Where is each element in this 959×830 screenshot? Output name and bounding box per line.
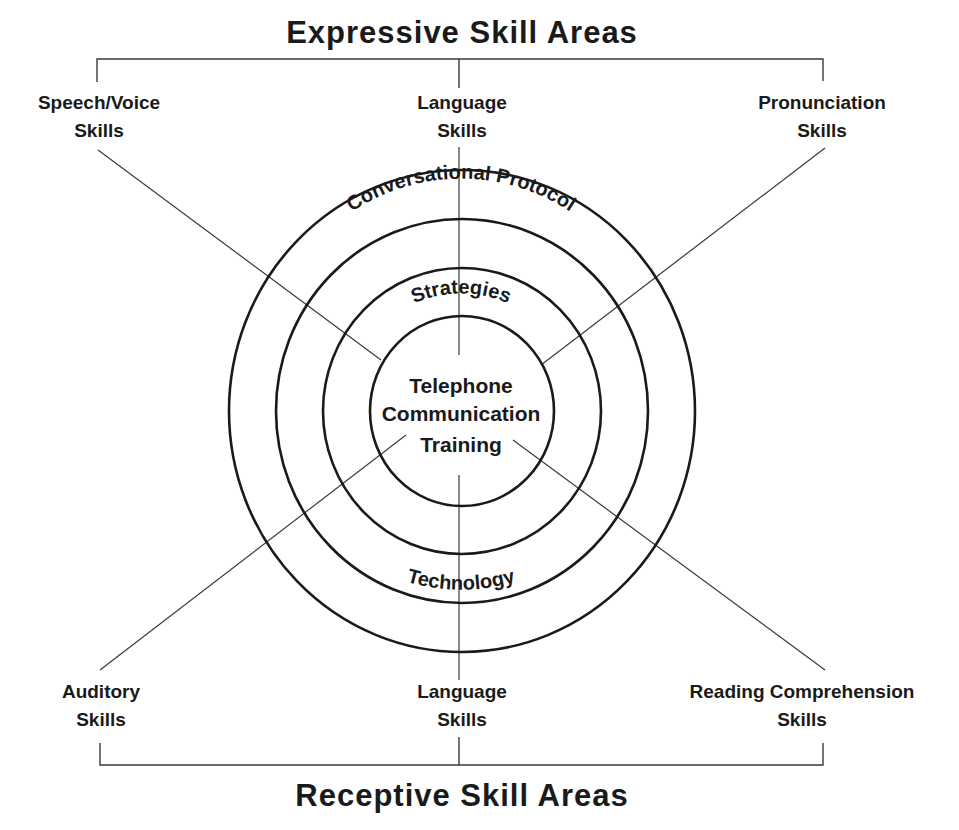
- svg-text:Skills: Skills: [777, 709, 827, 730]
- svg-text:Language: Language: [417, 92, 507, 113]
- receptive-bracket: [100, 737, 823, 765]
- svg-text:Reading Comprehension: Reading Comprehension: [690, 681, 915, 702]
- receptive-skill-reading-comprehension: Reading Comprehension Skills: [690, 681, 915, 730]
- expressive-bracket: [97, 59, 823, 88]
- ring-label-technology: Technology: [405, 564, 517, 593]
- expressive-skill-pronunciation: Pronunciation Skills: [758, 92, 886, 141]
- expressive-areas-title: Expressive Skill Areas: [286, 15, 638, 50]
- svg-text:Speech/Voice: Speech/Voice: [38, 92, 160, 113]
- receptive-skill-auditory: Auditory Skills: [62, 681, 141, 730]
- spoke-speech-voice: [98, 150, 381, 360]
- svg-text:Skills: Skills: [797, 120, 847, 141]
- svg-text:Communication: Communication: [382, 402, 541, 425]
- ring-label-strategies: Strategies: [408, 275, 515, 307]
- svg-text:Training: Training: [420, 433, 502, 456]
- svg-text:Skills: Skills: [74, 120, 124, 141]
- svg-text:Skills: Skills: [76, 709, 126, 730]
- svg-text:Language: Language: [417, 681, 507, 702]
- svg-text:Skills: Skills: [437, 120, 487, 141]
- svg-text:Auditory: Auditory: [62, 681, 141, 702]
- svg-text:Pronunciation: Pronunciation: [758, 92, 886, 113]
- svg-text:Skills: Skills: [437, 709, 487, 730]
- core-label: Telephone Communication Training: [382, 374, 541, 456]
- spoke-auditory: [100, 435, 406, 670]
- expressive-skill-language: Language Skills: [417, 92, 507, 141]
- svg-text:Telephone: Telephone: [409, 374, 512, 397]
- expressive-skill-speech-voice: Speech/Voice Skills: [38, 92, 160, 141]
- receptive-areas-title: Receptive Skill Areas: [295, 778, 628, 813]
- spoke-reading-comprehension: [513, 440, 825, 670]
- skill-areas-diagram: Expressive Skill Areas Speech/Voice Skil…: [0, 0, 959, 830]
- receptive-skill-language: Language Skills: [417, 681, 507, 730]
